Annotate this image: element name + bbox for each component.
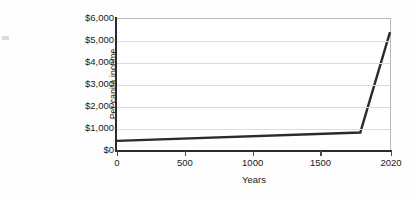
y-axis-tick-label: $6,000 — [58, 13, 114, 23]
gridline — [117, 107, 390, 108]
x-axis-tick-label: 2020 — [368, 157, 414, 168]
gridline — [117, 41, 390, 42]
gridline — [117, 63, 390, 64]
y-axis-tick-labels: $0$1,000$2,000$3,000$4,000$5,000$6,000 — [58, 0, 114, 201]
x-axis-tick-mark — [391, 151, 392, 156]
x-axis-tick-label: 500 — [162, 157, 208, 168]
plot-area — [117, 18, 391, 150]
x-axis-tick-label: 1000 — [230, 157, 276, 168]
y-axis-tick-label: $0 — [58, 145, 114, 155]
x-axis-tick-mark — [320, 151, 321, 156]
x-axis-tick-label: 0 — [94, 157, 140, 168]
x-axis-title: Years — [117, 174, 391, 185]
y-axis-tick-label: $5,000 — [58, 35, 114, 45]
x-axis-tick-label: 1500 — [297, 157, 343, 168]
y-axis-tick-label: $2,000 — [58, 101, 114, 111]
y-axis-tick-label: $3,000 — [58, 79, 114, 89]
y-axis-tick-label: $4,000 — [58, 57, 114, 67]
x-axis-tick-mark — [253, 151, 254, 156]
scan-artifact — [2, 36, 9, 40]
x-axis-tick-mark — [117, 151, 118, 156]
gridline — [117, 129, 390, 130]
x-axis-tick-mark — [185, 151, 186, 156]
y-axis-tick-label: $1,000 — [58, 123, 114, 133]
chart-figure: Per capita income (in 1990 international… — [0, 0, 414, 201]
gridline — [117, 85, 390, 86]
series-polyline — [117, 32, 390, 141]
